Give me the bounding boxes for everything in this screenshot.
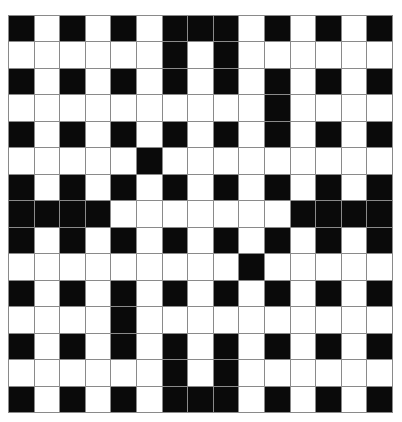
white-square[interactable] <box>137 307 162 332</box>
white-square[interactable] <box>316 360 341 385</box>
white-square[interactable] <box>239 228 264 253</box>
white-square[interactable] <box>9 95 34 120</box>
white-square[interactable] <box>60 42 85 67</box>
white-square[interactable] <box>9 307 34 332</box>
white-square[interactable] <box>9 42 34 67</box>
white-square[interactable] <box>291 228 316 253</box>
white-square[interactable] <box>239 95 264 120</box>
white-square[interactable] <box>86 95 111 120</box>
white-square[interactable] <box>342 95 367 120</box>
white-square[interactable] <box>291 281 316 306</box>
white-square[interactable] <box>291 122 316 147</box>
white-square[interactable] <box>239 16 264 41</box>
white-square[interactable] <box>86 254 111 279</box>
white-square[interactable] <box>316 254 341 279</box>
white-square[interactable] <box>137 175 162 200</box>
white-square[interactable] <box>60 148 85 173</box>
white-square[interactable] <box>239 281 264 306</box>
white-square[interactable] <box>86 334 111 359</box>
white-square[interactable] <box>137 16 162 41</box>
white-square[interactable] <box>137 69 162 94</box>
white-square[interactable] <box>342 175 367 200</box>
white-square[interactable] <box>214 307 239 332</box>
white-square[interactable] <box>137 201 162 226</box>
white-square[interactable] <box>214 148 239 173</box>
white-square[interactable] <box>86 69 111 94</box>
white-square[interactable] <box>111 42 136 67</box>
white-square[interactable] <box>188 175 213 200</box>
white-square[interactable] <box>342 360 367 385</box>
white-square[interactable] <box>342 228 367 253</box>
white-square[interactable] <box>367 307 392 332</box>
white-square[interactable] <box>291 148 316 173</box>
white-square[interactable] <box>35 281 60 306</box>
white-square[interactable] <box>35 148 60 173</box>
white-square[interactable] <box>316 42 341 67</box>
white-square[interactable] <box>86 228 111 253</box>
white-square[interactable] <box>291 334 316 359</box>
white-square[interactable] <box>291 254 316 279</box>
white-square[interactable] <box>239 69 264 94</box>
white-square[interactable] <box>35 122 60 147</box>
white-square[interactable] <box>342 307 367 332</box>
white-square[interactable] <box>35 95 60 120</box>
white-square[interactable] <box>137 254 162 279</box>
white-square[interactable] <box>163 95 188 120</box>
white-square[interactable] <box>111 148 136 173</box>
white-square[interactable] <box>188 122 213 147</box>
white-square[interactable] <box>188 281 213 306</box>
white-square[interactable] <box>265 201 290 226</box>
white-square[interactable] <box>316 148 341 173</box>
white-square[interactable] <box>239 387 264 412</box>
white-square[interactable] <box>35 42 60 67</box>
white-square[interactable] <box>239 360 264 385</box>
white-square[interactable] <box>188 42 213 67</box>
white-square[interactable] <box>35 307 60 332</box>
white-square[interactable] <box>137 42 162 67</box>
white-square[interactable] <box>188 307 213 332</box>
white-square[interactable] <box>291 95 316 120</box>
white-square[interactable] <box>9 360 34 385</box>
white-square[interactable] <box>342 281 367 306</box>
white-square[interactable] <box>291 175 316 200</box>
white-square[interactable] <box>342 148 367 173</box>
white-square[interactable] <box>265 307 290 332</box>
white-square[interactable] <box>163 148 188 173</box>
white-square[interactable] <box>60 307 85 332</box>
white-square[interactable] <box>367 95 392 120</box>
white-square[interactable] <box>35 69 60 94</box>
white-square[interactable] <box>265 42 290 67</box>
white-square[interactable] <box>137 334 162 359</box>
white-square[interactable] <box>188 201 213 226</box>
white-square[interactable] <box>163 254 188 279</box>
white-square[interactable] <box>137 95 162 120</box>
white-square[interactable] <box>137 281 162 306</box>
white-square[interactable] <box>35 360 60 385</box>
white-square[interactable] <box>35 16 60 41</box>
white-square[interactable] <box>188 334 213 359</box>
white-square[interactable] <box>35 334 60 359</box>
white-square[interactable] <box>137 360 162 385</box>
white-square[interactable] <box>137 387 162 412</box>
white-square[interactable] <box>137 228 162 253</box>
white-square[interactable] <box>137 122 162 147</box>
white-square[interactable] <box>265 254 290 279</box>
white-square[interactable] <box>342 122 367 147</box>
white-square[interactable] <box>367 42 392 67</box>
white-square[interactable] <box>239 42 264 67</box>
white-square[interactable] <box>86 148 111 173</box>
white-square[interactable] <box>342 254 367 279</box>
white-square[interactable] <box>188 148 213 173</box>
white-square[interactable] <box>316 307 341 332</box>
white-square[interactable] <box>9 148 34 173</box>
white-square[interactable] <box>239 307 264 332</box>
white-square[interactable] <box>342 387 367 412</box>
white-square[interactable] <box>188 228 213 253</box>
white-square[interactable] <box>342 16 367 41</box>
white-square[interactable] <box>60 95 85 120</box>
white-square[interactable] <box>367 148 392 173</box>
white-square[interactable] <box>86 281 111 306</box>
white-square[interactable] <box>111 254 136 279</box>
white-square[interactable] <box>291 16 316 41</box>
white-square[interactable] <box>367 360 392 385</box>
